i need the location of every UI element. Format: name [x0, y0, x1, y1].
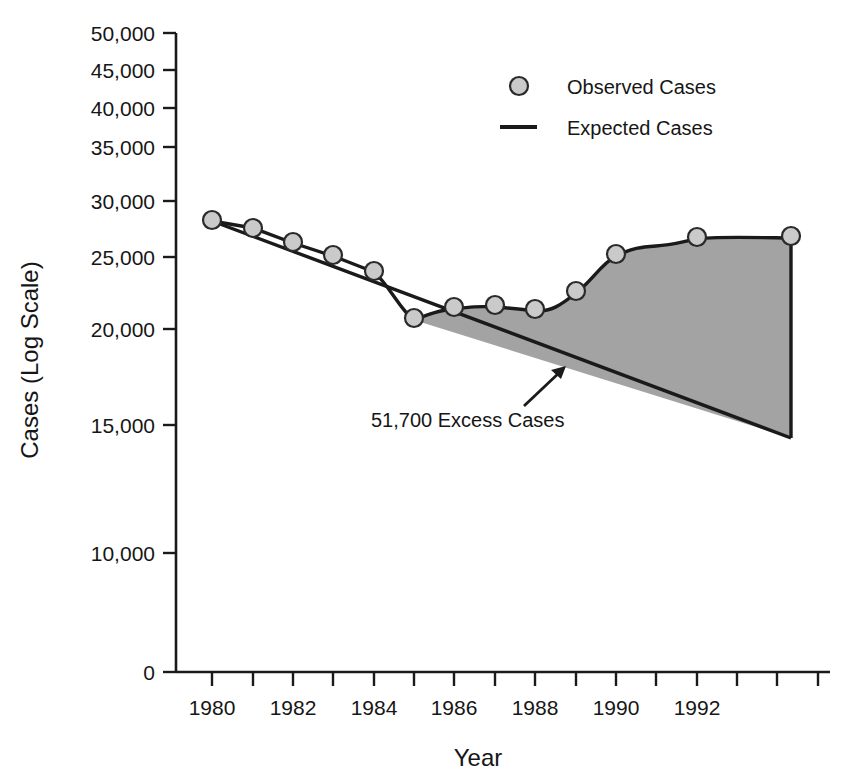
y-axis-tick-labels: 50,000 45,000 40,000 35,000 30,000 25,00…	[91, 22, 155, 684]
data-point	[782, 227, 800, 245]
chart-figure: 50,000 45,000 40,000 35,000 30,000 25,00…	[0, 0, 860, 784]
annotation-label: 51,700 Excess Cases	[371, 409, 564, 431]
x-tick-label: 1986	[431, 696, 478, 719]
x-tick-label: 1992	[674, 696, 721, 719]
y-tick-label: 40,000	[91, 97, 155, 120]
data-point	[607, 245, 625, 263]
chart-legend: Observed Cases Expected Cases	[500, 76, 716, 139]
x-axis-tick-labels: 1980 1982 1984 1986 1988 1990 1992	[189, 696, 721, 719]
x-tick-label: 1982	[270, 696, 317, 719]
x-tick-label: 1980	[189, 696, 236, 719]
data-point	[445, 298, 463, 316]
x-tick-label: 1984	[351, 696, 398, 719]
data-point	[284, 233, 302, 251]
y-axis-ticks	[163, 33, 176, 672]
data-point	[688, 228, 706, 246]
x-axis-ticks	[212, 672, 818, 686]
data-point	[244, 219, 262, 237]
y-tick-label: 0	[143, 661, 155, 684]
y-tick-label: 15,000	[91, 414, 155, 437]
y-tick-label: 45,000	[91, 59, 155, 82]
legend-label-expected: Expected Cases	[567, 117, 713, 139]
data-point	[486, 296, 504, 314]
data-point	[567, 282, 585, 300]
y-tick-label: 30,000	[91, 190, 155, 213]
y-tick-label: 25,000	[91, 246, 155, 269]
x-axis-title: Year	[454, 744, 503, 771]
data-point	[526, 300, 544, 318]
excess-cases-annotation: 51,700 Excess Cases	[371, 366, 566, 431]
y-tick-label: 35,000	[91, 136, 155, 159]
data-point	[365, 262, 383, 280]
x-tick-label: 1988	[512, 696, 559, 719]
x-tick-label: 1990	[593, 696, 640, 719]
y-tick-label: 20,000	[91, 318, 155, 341]
y-tick-label: 10,000	[91, 542, 155, 565]
legend-label-observed: Observed Cases	[567, 76, 716, 98]
y-axis-title: Cases (Log Scale)	[16, 261, 43, 458]
y-tick-label: 50,000	[91, 22, 155, 45]
excess-cases-chart: 50,000 45,000 40,000 35,000 30,000 25,00…	[0, 0, 860, 784]
legend-marker-observed	[510, 77, 528, 95]
data-point	[203, 211, 221, 229]
data-point	[324, 246, 342, 264]
data-point	[405, 309, 423, 327]
